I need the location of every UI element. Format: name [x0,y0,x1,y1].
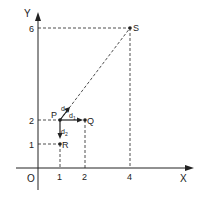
guide-lines [38,28,130,168]
point-label-r: R [62,140,69,150]
x-tick-2: 2 [82,172,87,182]
segment-p-s [60,28,130,120]
origin-label: O [27,173,35,184]
point-label-q: Q [87,116,94,126]
y-tick-6: 6 [29,24,34,34]
point-label-s: S [133,23,139,33]
y-tick-1: 1 [29,140,34,150]
d2-label: d2 [61,128,68,137]
points [58,26,132,146]
x-tick-1: 1 [57,172,62,182]
d1-label: d1 [69,112,76,121]
point-label-p: P [51,110,57,120]
d3-label: d3 [61,105,68,114]
y-axis-arrow-icon [35,12,41,21]
x-axis-arrow-icon [185,165,194,171]
coordinate-diagram: Y X O 1 2 4 1 2 6 P Q R S d1 d2 d3 [0,0,204,202]
d1-arrowhead-icon [77,118,83,123]
x-tick-4: 4 [127,172,132,182]
x-axis-label: X [180,173,187,184]
point-p [58,118,62,122]
y-axis-label: Y [24,8,31,19]
y-tick-2: 2 [29,116,34,126]
point-s [128,26,132,30]
axes [16,18,190,190]
